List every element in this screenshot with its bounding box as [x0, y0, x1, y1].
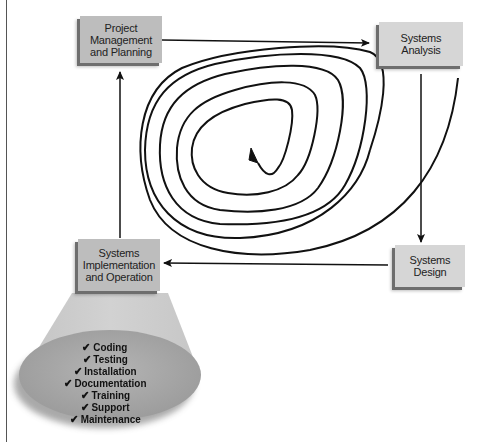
phase-label-analysis: Systems Analysis [401, 32, 442, 56]
phase-box-planning: Project Management and Planning [80, 16, 162, 63]
check-icon: ✔ [82, 353, 90, 365]
check-icon: ✔ [83, 341, 91, 353]
check-icon: ✔ [70, 413, 78, 425]
spiral-path [141, 46, 458, 254]
phase-label-implementation: Systems Implementation and Operation [83, 247, 155, 283]
activity-item-training: ✔ Training [80, 389, 129, 401]
phase-box-implementation: Systems Implementation and Operation [78, 239, 160, 291]
phase-box-analysis: Systems Analysis [379, 22, 463, 66]
activity-label: Coding [93, 341, 127, 353]
activity-label: Training [91, 389, 130, 401]
activity-label: Maintenance [80, 413, 140, 425]
activity-item-installation: ✔ Installation [73, 365, 136, 377]
activity-item-support: ✔ Support [81, 401, 130, 413]
spiral-end-arrow-icon [249, 148, 258, 163]
activity-item-maintenance: ✔ Maintenance [70, 413, 141, 425]
check-icon: ✔ [81, 401, 89, 413]
arrow-planning-to-analysis [162, 40, 369, 43]
activities-list: ✔ Coding ✔ Testing ✔ Installation ✔ Docu… [20, 333, 190, 433]
activity-label: Installation [84, 365, 136, 377]
check-icon: ✔ [80, 389, 88, 401]
activity-label: Documentation [74, 377, 146, 389]
activity-item-testing: ✔ Testing [82, 353, 127, 365]
check-icon: ✔ [64, 377, 72, 389]
phase-box-design: Systems Design [395, 245, 465, 287]
activity-item-documentation: ✔ Documentation [64, 377, 147, 389]
phase-label-design: Systems Design [410, 254, 451, 278]
activity-label: Testing [93, 353, 127, 365]
activity-label: Support [91, 401, 129, 413]
arrow-design-to-implementation [164, 263, 388, 265]
check-icon: ✔ [73, 365, 81, 377]
activity-item-coding: ✔ Coding [83, 341, 128, 353]
phase-label-planning: Project Management and Planning [90, 22, 152, 58]
